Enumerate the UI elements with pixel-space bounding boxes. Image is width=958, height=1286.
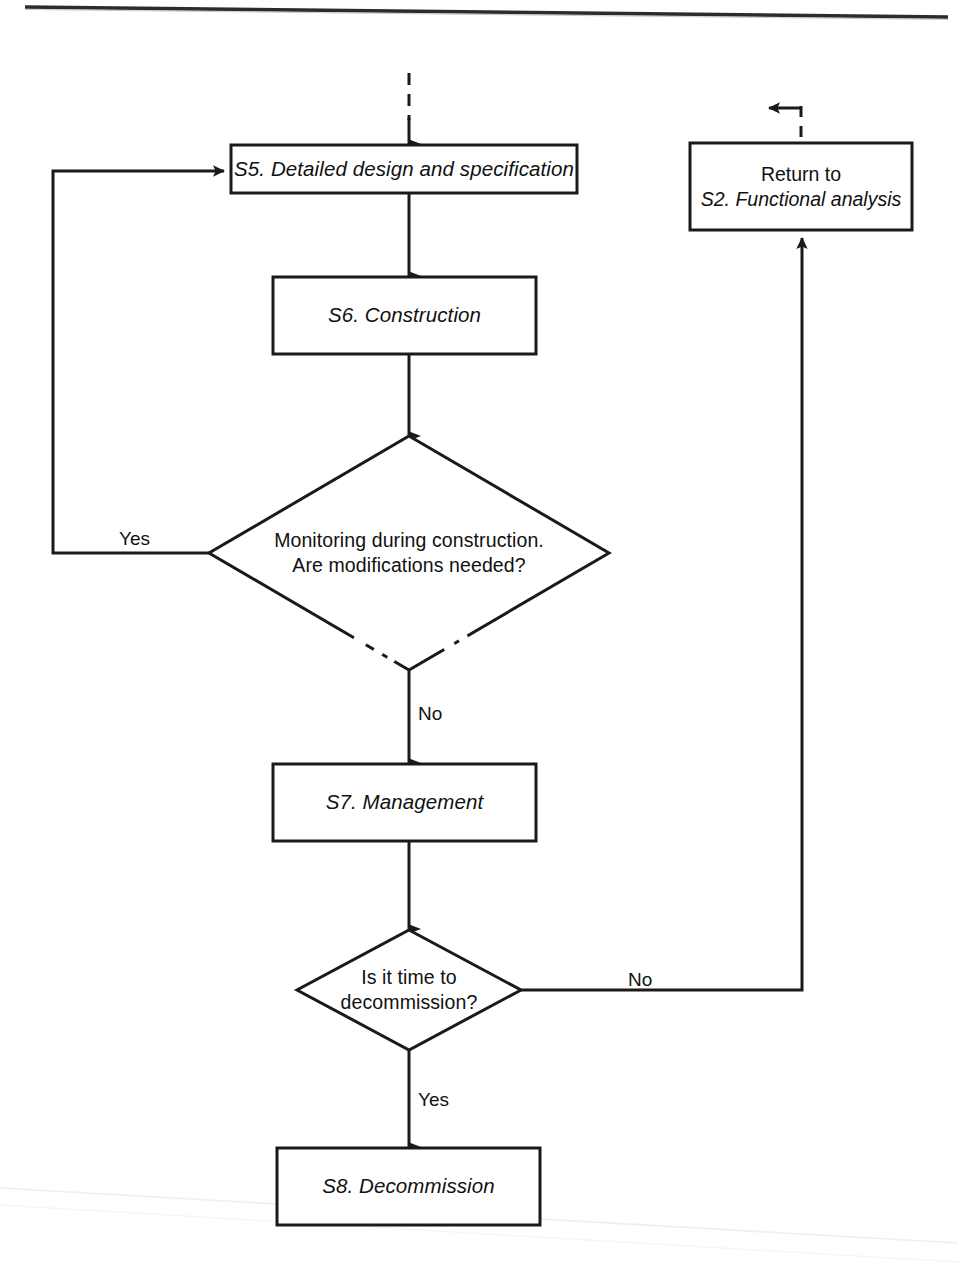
node-s5-label: S5. Detailed design and specification — [231, 145, 577, 193]
node-return-to-s2[interactable] — [690, 143, 912, 230]
return-to-line: Return to — [761, 162, 841, 187]
node-s8-label: S8. Decommission — [277, 1148, 540, 1225]
edge-decision-decommission-no-to-return — [521, 238, 802, 990]
node-decision-decommission-label: Is it time to decommission? — [299, 950, 519, 1030]
node-s5-detailed-design[interactable] — [231, 145, 577, 193]
node-decision-monitoring[interactable] — [209, 436, 609, 670]
scan-artifact-streak — [0, 1188, 958, 1262]
edge-return-to-exit — [769, 105, 801, 137]
flowchart-canvas: S5. Detailed design and specification S6… — [0, 0, 958, 1286]
node-decision-monitoring-label: Monitoring during construction. Are modi… — [229, 511, 589, 595]
node-return-to-s2-label: Return to S2. Functional analysis — [690, 143, 912, 230]
edge-label-yes-decommission: Yes — [418, 1089, 449, 1111]
node-s7-label: S7. Management — [273, 764, 536, 841]
edge-label-yes-modifications: Yes — [119, 528, 150, 550]
edge-decision-monitoring-yes-to-s5 — [53, 171, 224, 553]
flowchart-vector-layer — [0, 0, 958, 1286]
node-s6-label: S6. Construction — [273, 277, 536, 354]
node-s6-construction[interactable] — [273, 277, 536, 354]
node-decision-decommission[interactable] — [297, 930, 521, 1050]
node-s8-decommission[interactable] — [277, 1148, 540, 1225]
edge-label-no-modifications: No — [418, 703, 442, 725]
edge-label-no-decommission: No — [628, 969, 652, 991]
node-s7-management[interactable] — [273, 764, 536, 841]
top-horizontal-rule — [25, 7, 948, 20]
s2-functional-analysis-line: S2. Functional analysis — [701, 187, 902, 212]
